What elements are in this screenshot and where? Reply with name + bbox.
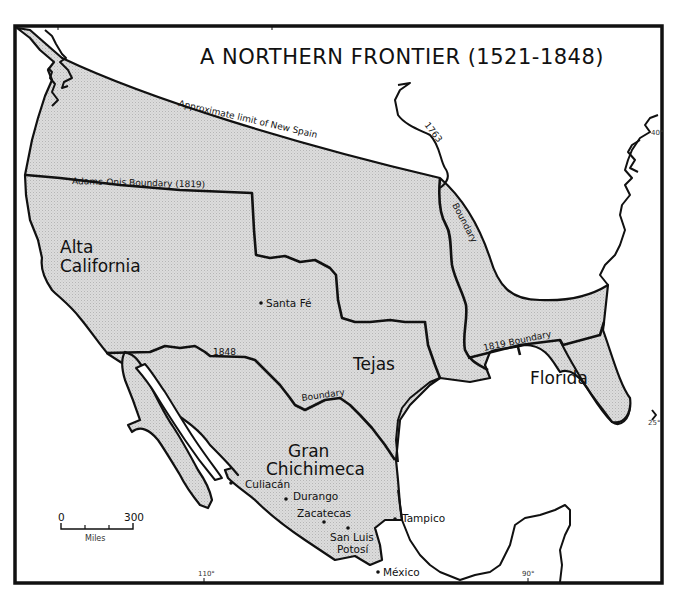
city-santa-fe: Santa Fé bbox=[266, 297, 312, 309]
city-dot-culiacan bbox=[229, 481, 233, 485]
scale-bar: 0 300 Miles bbox=[58, 511, 144, 543]
city-dot-mexico bbox=[376, 570, 380, 574]
lat-label-40: 40° bbox=[651, 129, 663, 137]
city-zacatecas: Zacatecas bbox=[297, 507, 351, 519]
city-dot-san-luis-potosi bbox=[346, 526, 350, 530]
city-dot-durango bbox=[284, 497, 288, 501]
city-dot-santa-fe bbox=[259, 301, 263, 305]
atlantic-coast bbox=[600, 115, 658, 285]
region-gran-chichimeca-l2: Chichimeca bbox=[266, 459, 365, 479]
city-durango: Durango bbox=[293, 490, 338, 502]
city-dot-tampico bbox=[393, 517, 397, 521]
historical-map: A NORTHERN FRONTIER (1521-1848) Alta Cal… bbox=[0, 0, 676, 601]
city-san-luis-potosi-l2: Potosí bbox=[337, 543, 369, 555]
city-san-luis-potosi-l1: San Luis bbox=[330, 531, 374, 543]
lat-label-25: 25° bbox=[648, 419, 660, 427]
region-alta-california-l2: California bbox=[60, 256, 141, 276]
new-spain-territory bbox=[17, 28, 630, 565]
label-1848: 1848 bbox=[213, 347, 236, 357]
city-dot-zacatecas bbox=[322, 520, 326, 524]
lon-label-90: 90° bbox=[522, 570, 534, 578]
region-gran-chichimeca-l1: Gran bbox=[288, 441, 329, 461]
mexico-gulf-coast bbox=[398, 490, 570, 582]
scale-max: 300 bbox=[124, 511, 144, 523]
city-mexico: México bbox=[383, 566, 420, 578]
region-tejas: Tejas bbox=[352, 354, 395, 374]
city-tampico: Tampico bbox=[401, 512, 445, 524]
lon-label-110: 110° bbox=[198, 570, 215, 578]
region-alta-california-l1: Alta bbox=[60, 237, 93, 257]
region-florida: Florida bbox=[530, 368, 588, 388]
scale-min: 0 bbox=[58, 511, 65, 523]
map-title: A NORTHERN FRONTIER (1521-1848) bbox=[200, 45, 604, 69]
scale-unit: Miles bbox=[85, 534, 105, 543]
city-culiacan: Culiacán bbox=[245, 478, 290, 490]
boundary-1819-stub bbox=[518, 347, 520, 355]
